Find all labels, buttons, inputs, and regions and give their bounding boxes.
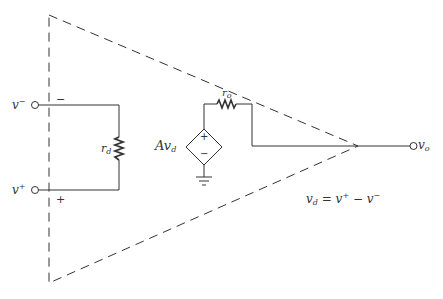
source-plus: +	[200, 131, 208, 142]
circuit-drawing	[0, 0, 443, 299]
plus-sign: +	[56, 193, 65, 206]
resistor-ro	[217, 100, 236, 108]
ro-label: ro	[222, 87, 232, 100]
resistor-rd	[115, 137, 123, 160]
v-minus-terminal	[32, 102, 39, 109]
minus-sign: −	[56, 93, 65, 106]
v-out-terminal	[410, 143, 417, 150]
vo-label: vo	[418, 138, 430, 153]
v-plus-terminal	[32, 187, 39, 194]
v-minus-label: v−	[12, 97, 25, 112]
source-label: Avd	[155, 138, 176, 154]
op-amp-model-diagram: v− v+ − + rd ro Avd + − vo vd = v+ − v−	[0, 0, 443, 299]
v-plus-label: v+	[12, 182, 25, 197]
rd-label: rd	[101, 142, 111, 156]
source-minus: −	[200, 148, 208, 159]
equation: vd = v+ − v−	[306, 191, 380, 207]
